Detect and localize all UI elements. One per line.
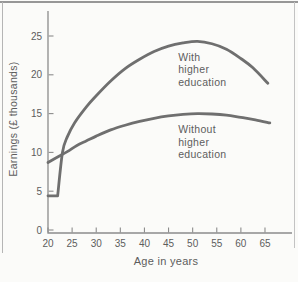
y-tick-label: 25 [31, 31, 43, 42]
x-tick-label: 50 [187, 238, 199, 249]
x-tick-label: 65 [259, 238, 271, 249]
x-axis-title: Age in years [44, 255, 288, 267]
x-tick-label: 30 [91, 238, 103, 249]
y-tick-label: 5 [36, 186, 42, 197]
series-label-with-higher-education: Withhighereducation [178, 51, 226, 88]
y-tick-label: 15 [31, 108, 43, 119]
x-tick-label: 45 [163, 238, 175, 249]
earnings-by-age-figure: 051015202520253035404550556065Withhigher… [0, 0, 298, 282]
x-tick-label: 55 [211, 238, 223, 249]
y-tick-label: 0 [36, 225, 42, 236]
x-tick-label: 25 [67, 238, 79, 249]
x-tick-label: 20 [42, 238, 54, 249]
y-axis-title: Earnings (£ thousands) [7, 61, 19, 176]
chart-canvas: 051015202520253035404550556065Withhigher… [0, 0, 298, 282]
y-tick-label: 20 [31, 69, 43, 80]
series-line-without-higher-education [48, 114, 270, 163]
y-tick-label: 10 [31, 147, 43, 158]
series-label-without-higher-education: Withouthighereducation [178, 123, 226, 160]
x-tick-label: 60 [235, 238, 247, 249]
x-tick-label: 35 [115, 238, 127, 249]
x-tick-label: 40 [139, 238, 151, 249]
